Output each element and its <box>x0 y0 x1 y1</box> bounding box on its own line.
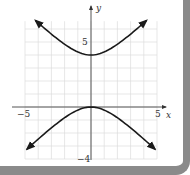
x-axis-label: x <box>166 110 171 120</box>
x-tick-min: −5 <box>17 109 31 119</box>
y-axis-label: y <box>95 3 102 13</box>
y-tick-5: 5 <box>82 37 88 47</box>
x-tick-max: 5 <box>155 109 161 119</box>
hyperbola-chart: y x −5 5 5 −4 <box>0 0 190 175</box>
y-tick-min: −4 <box>77 154 91 164</box>
